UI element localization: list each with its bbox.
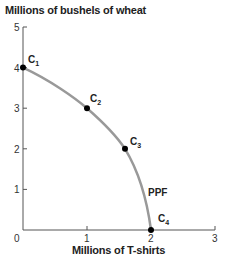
label-c3: C3 xyxy=(130,136,141,149)
label-c4: C4 xyxy=(158,213,169,226)
ppf-chart: 5 4 3 2 1 0 1 2 3 C1 C2 C3 C4 PPF xyxy=(0,0,233,266)
x-tick-3: 3 xyxy=(212,233,218,244)
y-tick-1: 1 xyxy=(14,184,20,195)
y-ticks xyxy=(23,27,27,189)
y-tick-3: 3 xyxy=(14,103,20,114)
y-tick-5: 5 xyxy=(14,22,20,33)
x-tick-0: 0 xyxy=(14,233,20,244)
ppf-curve xyxy=(23,68,151,230)
x-tick-1: 1 xyxy=(84,233,90,244)
label-c2: C2 xyxy=(90,93,101,106)
point-c4 xyxy=(148,227,154,233)
point-c3 xyxy=(122,146,128,152)
ppf-label: PPF xyxy=(148,187,167,198)
point-c1 xyxy=(20,65,26,71)
y-tick-4: 4 xyxy=(14,63,20,74)
x-tick-2: 2 xyxy=(148,233,154,244)
y-tick-2: 2 xyxy=(14,144,20,155)
x-axis-title: Millions of T-shirts xyxy=(0,244,233,256)
point-c2 xyxy=(84,105,90,111)
label-c1: C1 xyxy=(28,54,39,67)
